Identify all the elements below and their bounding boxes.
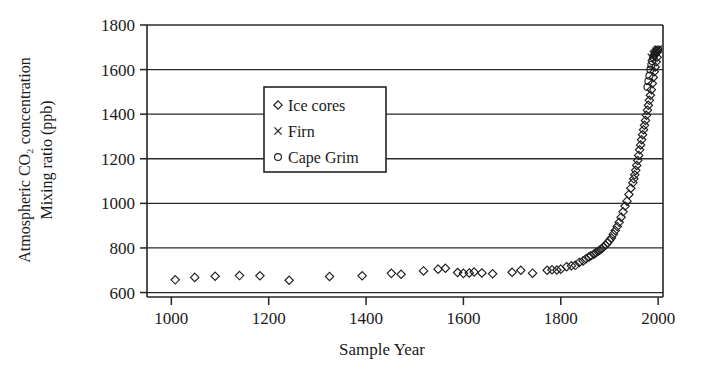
co2-scatter-chart: Atmospheric CO₂ concentration Mixing rat… xyxy=(0,0,703,375)
data-point-ice-cores-8 xyxy=(387,269,395,277)
series-cape-grim xyxy=(644,46,662,90)
data-point-ice-cores-20 xyxy=(517,266,525,274)
svg-text:Mixing ratio (ppb): Mixing ratio (ppb) xyxy=(38,100,56,219)
svg-text:Atmospheric CO₂ concentration: Atmospheric CO₂ concentration xyxy=(16,57,34,263)
data-point-ice-cores-17 xyxy=(478,269,486,277)
y-tick-label-600: 600 xyxy=(110,284,136,303)
legend-label-ice-cores: Ice cores xyxy=(288,97,345,114)
data-point-ice-cores-10 xyxy=(419,267,427,275)
data-point-ice-cores-21 xyxy=(528,269,536,277)
legend-label-cape-grim: Cape Grim xyxy=(288,149,359,167)
data-point-ice-cores-3 xyxy=(235,271,243,279)
data-point-ice-cores-5 xyxy=(285,276,293,284)
data-point-ice-cores-19 xyxy=(508,268,516,276)
data-point-ice-cores-2 xyxy=(211,272,219,280)
x-tick-label-1000: 1000 xyxy=(154,309,188,328)
data-point-ice-cores-4 xyxy=(256,272,264,280)
chart-figure: Atmospheric CO₂ concentration Mixing rat… xyxy=(0,0,703,375)
x-tick-label-2000: 2000 xyxy=(641,309,675,328)
x-tick-label-1200: 1200 xyxy=(252,309,286,328)
data-point-ice-cores-7 xyxy=(358,272,366,280)
x-tick-label-1400: 1400 xyxy=(349,309,383,328)
y-tick-label-1800: 1800 xyxy=(101,16,135,35)
x-tick-label-1800: 1800 xyxy=(544,309,578,328)
chart-legend: Ice coresFirnCape Grim xyxy=(264,87,386,172)
y-axis-title: Atmospheric CO₂ concentration Mixing rat… xyxy=(16,57,56,263)
x-axis-title: Sample Year xyxy=(339,340,425,359)
y-axis-ticks: 60080010001200140016001800 xyxy=(101,16,147,303)
x-tick-label-1600: 1600 xyxy=(446,309,480,328)
y-tick-label-1200: 1200 xyxy=(101,150,135,169)
data-point-ice-cores-11 xyxy=(434,265,442,273)
series-ice-cores xyxy=(171,53,661,284)
x-axis-ticks: 100012001400160018002000 xyxy=(154,297,675,328)
data-points xyxy=(171,46,662,285)
y-axis-title-line2: Mixing ratio (ppb) xyxy=(38,100,56,219)
y-tick-label-800: 800 xyxy=(110,239,136,258)
data-point-ice-cores-0 xyxy=(171,276,179,284)
y-tick-label-1400: 1400 xyxy=(101,105,135,124)
data-point-ice-cores-9 xyxy=(397,270,405,278)
data-point-ice-cores-1 xyxy=(191,273,199,281)
grid-lines xyxy=(147,25,663,293)
y-tick-label-1000: 1000 xyxy=(101,194,135,213)
data-point-ice-cores-12 xyxy=(441,264,449,272)
data-point-ice-cores-18 xyxy=(488,270,496,278)
y-tick-label-1600: 1600 xyxy=(101,61,135,80)
legend-label-firn: Firn xyxy=(288,123,315,140)
data-point-ice-cores-6 xyxy=(325,272,333,280)
y-axis-title-line1: Atmospheric CO₂ concentration xyxy=(16,57,34,263)
